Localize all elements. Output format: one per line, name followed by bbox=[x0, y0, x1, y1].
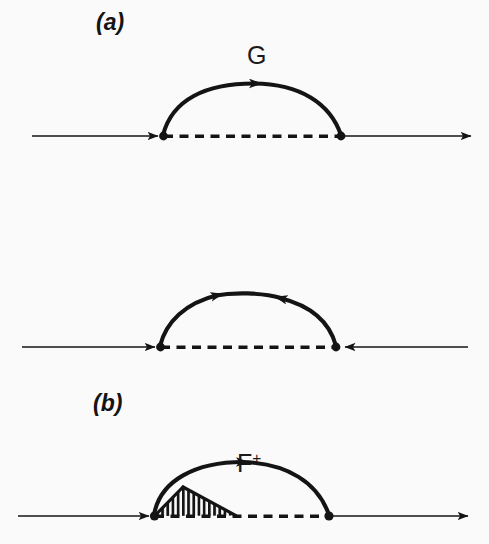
arc-apex-b bbox=[214, 293, 281, 298]
arc-left-half-a bbox=[163, 83, 256, 135]
vertex-dot-icon-left-b bbox=[156, 343, 165, 352]
hatched-wedge-region-c bbox=[150, 480, 242, 520]
figure-feynman-diagrams: (a) G bbox=[0, 0, 489, 544]
arc-right-half-b bbox=[280, 298, 336, 346]
panel-label-a: (a) bbox=[96, 11, 124, 34]
vertex-dot-icon-left-a bbox=[159, 132, 168, 141]
arc-label-g: G bbox=[247, 43, 266, 68]
panel-a-drawing bbox=[0, 0, 489, 190]
diagram-panel-a: (a) G bbox=[0, 0, 489, 190]
vertex-dot-icon-right-b bbox=[332, 343, 341, 352]
vertex-dot-icon-left-c bbox=[150, 511, 159, 520]
arc-left-half-b bbox=[160, 295, 218, 346]
diagram-panel-c: (c) bbox=[0, 380, 489, 544]
vertex-dot-icon-right-a bbox=[337, 132, 346, 141]
panel-c-drawing bbox=[0, 380, 489, 544]
vertex-dot-icon-right-c bbox=[324, 511, 333, 520]
diagram-panel-b: (b) F+ bbox=[0, 190, 489, 380]
arc-right-half-c bbox=[241, 462, 329, 515]
panel-b-drawing bbox=[0, 190, 489, 380]
arc-right-half-a bbox=[254, 84, 341, 136]
